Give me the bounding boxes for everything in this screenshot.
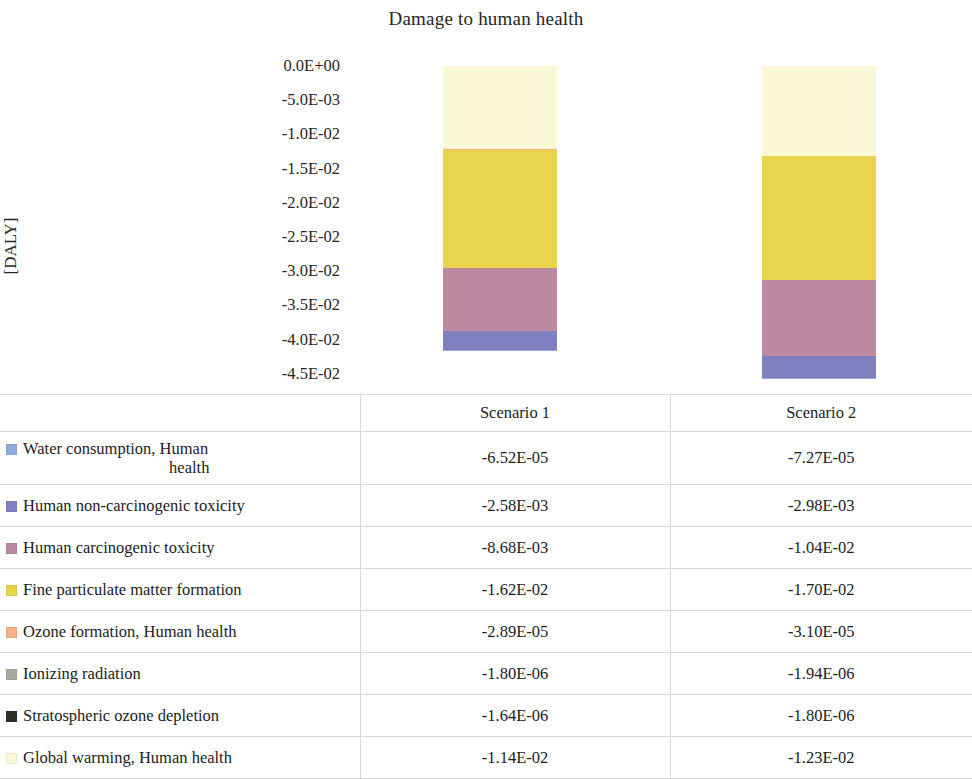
table-row: Human carcinogenic toxicity-8.68E-03-1.0… <box>0 527 972 569</box>
legend-swatch-icon <box>6 444 17 455</box>
legend-swatch-icon <box>6 711 17 722</box>
value-cell-scenario-1: -1.80E-06 <box>360 653 670 695</box>
column-header-scenario-1: Scenario 1 <box>360 395 670 432</box>
value-cell-scenario-1: -1.64E-06 <box>360 695 670 737</box>
legend-cell: Ionizing radiation <box>0 653 360 695</box>
value-cell-scenario-1: -2.89E-05 <box>360 611 670 653</box>
bar-segment-global-warming-human-health <box>443 66 557 149</box>
value-cell-scenario-1: -8.68E-03 <box>360 527 670 569</box>
table-row: Human non-carcinogenic toxicity-2.58E-03… <box>0 485 972 527</box>
bar-segment-human-carcinogenic-toxicity <box>762 280 876 356</box>
legend-label: Global warming, Human health <box>23 748 360 767</box>
value-cell-scenario-1: -1.14E-02 <box>360 737 670 779</box>
legend-label: Ozone formation, Human health <box>23 622 360 641</box>
legend-cell: Water consumption, Humanhealth <box>0 432 360 485</box>
value-cell-scenario-1: -2.58E-03 <box>360 485 670 527</box>
table-row: Ozone formation, Human health-2.89E-05-3… <box>0 611 972 653</box>
data-table: Scenario 1 Scenario 2 Water consumption,… <box>0 394 972 779</box>
bar-segment-fine-particulate-matter-formation <box>443 150 557 268</box>
legend-swatch-icon <box>6 501 17 512</box>
value-cell-scenario-2: -1.94E-06 <box>670 653 972 695</box>
y-axis-tick-4: -2.0E-02 <box>232 195 340 211</box>
y-axis-tick-5: -2.5E-02 <box>232 229 340 245</box>
bar-segment-human-carcinogenic-toxicity <box>443 268 557 331</box>
value-cell-scenario-2: -2.98E-03 <box>670 485 972 527</box>
value-cell-scenario-2: -1.70E-02 <box>670 569 972 611</box>
legend-swatch-icon <box>6 627 17 638</box>
bar-segment-water-consumption-human-health <box>762 378 876 379</box>
value-cell-scenario-1: -1.62E-02 <box>360 569 670 611</box>
legend-cell: Fine particulate matter formation <box>0 569 360 611</box>
legend-cell: Human non-carcinogenic toxicity <box>0 485 360 527</box>
legend-header-cell <box>0 395 360 432</box>
value-cell-scenario-2: -1.04E-02 <box>670 527 972 569</box>
table-row: Ionizing radiation-1.80E-06-1.94E-06 <box>0 653 972 695</box>
legend-swatch-icon <box>6 543 17 554</box>
y-axis-tick-2: -1.0E-02 <box>232 126 340 142</box>
column-header-scenario-2: Scenario 2 <box>670 395 972 432</box>
legend-label: Ionizing radiation <box>23 664 360 683</box>
legend-swatch-icon <box>6 669 17 680</box>
y-axis-tick-1: -5.0E-03 <box>232 92 340 108</box>
table-row: Global warming, Human health-1.14E-02-1.… <box>0 737 972 779</box>
table-header-row: Scenario 1 Scenario 2 <box>0 395 972 432</box>
y-axis-tick-9: -4.5E-02 <box>232 366 340 382</box>
table-row: Stratospheric ozone depletion-1.64E-06-1… <box>0 695 972 737</box>
bar-segment-human-non-carcinogenic-toxicity <box>443 331 557 350</box>
table-row: Water consumption, Humanhealth-6.52E-05-… <box>0 432 972 485</box>
y-axis-tick-6: -3.0E-02 <box>232 263 340 279</box>
value-cell-scenario-2: -1.23E-02 <box>670 737 972 779</box>
legend-cell: Stratospheric ozone depletion <box>0 695 360 737</box>
legend-label: Water consumption, Humanhealth <box>23 439 360 477</box>
y-axis-tick-labels: 0.0E+00-5.0E-03-1.0E-02-1.5E-02-2.0E-02-… <box>232 58 340 402</box>
value-cell-scenario-2: -1.80E-06 <box>670 695 972 737</box>
value-cell-scenario-2: -3.10E-05 <box>670 611 972 653</box>
y-axis-tick-3: -1.5E-02 <box>232 161 340 177</box>
bar-scenario-1 <box>443 66 557 351</box>
value-cell-scenario-1: -6.52E-05 <box>360 432 670 485</box>
legend-label: Stratospheric ozone depletion <box>23 706 360 725</box>
legend-label: Human non-carcinogenic toxicity <box>23 496 360 515</box>
bar-segment-fine-particulate-matter-formation <box>762 156 876 280</box>
legend-cell: Human carcinogenic toxicity <box>0 527 360 569</box>
legend-swatch-icon <box>6 585 17 596</box>
bar-scenario-2 <box>762 66 876 379</box>
y-axis-tick-8: -4.0E-02 <box>232 332 340 348</box>
value-cell-scenario-2: -7.27E-05 <box>670 432 972 485</box>
plot-area: 0.0E+00-5.0E-03-1.0E-02-1.5E-02-2.0E-02-… <box>0 0 972 400</box>
legend-label: Fine particulate matter formation <box>23 580 360 599</box>
bar-segment-global-warming-human-health <box>762 66 876 156</box>
y-axis-tick-0: 0.0E+00 <box>232 58 340 74</box>
table-row: Fine particulate matter formation-1.62E-… <box>0 569 972 611</box>
bar-segment-human-non-carcinogenic-toxicity <box>762 356 876 378</box>
legend-cell: Global warming, Human health <box>0 737 360 779</box>
legend-cell: Ozone formation, Human health <box>0 611 360 653</box>
legend-label: Human carcinogenic toxicity <box>23 538 360 557</box>
legend-swatch-icon <box>6 753 17 764</box>
y-axis-tick-7: -3.5E-02 <box>232 297 340 313</box>
